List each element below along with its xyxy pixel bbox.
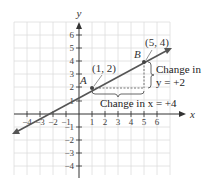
point-a-coords: (1, 2) [92, 62, 116, 75]
point-b: B (5, 4) [134, 36, 169, 64]
point-a-name: A [79, 74, 87, 86]
x-tick-label: 6 [155, 117, 160, 127]
x-tick-label: 2 [103, 117, 108, 127]
y-axis: 6 5 4 3 2 1 −1 −2 −3 −4 y [64, 7, 82, 178]
x-tick-label: 5 [142, 117, 147, 127]
x-axis: −4 −3 −2 −1 1 2 3 4 5 6 x [14, 108, 195, 127]
point-b-name: B [134, 48, 141, 60]
y-axis-label: y [76, 7, 82, 19]
y-tick-label: 3 [70, 69, 75, 79]
slope-graph: −4 −3 −2 −1 1 2 3 4 5 6 x 6 5 4 3 2 1 [0, 0, 210, 191]
x-tick-label: 1 [90, 117, 95, 127]
y-tick-label: −2 [64, 135, 74, 145]
x-axis-label: x [189, 108, 195, 120]
y-tick-label: −3 [64, 148, 74, 158]
point-b-coords: (5, 4) [145, 36, 169, 49]
x-tick-label: 3 [116, 117, 121, 127]
y-axis-arrow-icon [76, 22, 82, 29]
point-a: A (1, 2) [79, 62, 116, 90]
y-tick-label: 5 [70, 43, 75, 53]
change-x-label: Change in x = +4 [100, 97, 177, 109]
y-tick-label: −4 [64, 161, 74, 171]
change-y-line1: Change in [156, 63, 201, 75]
y-tick-label: 6 [70, 30, 75, 40]
x-tick-label: 4 [129, 117, 134, 127]
x-axis-arrow-icon [179, 111, 186, 117]
y-tick-label: −1 [64, 122, 74, 132]
y-tick-label: 2 [70, 82, 75, 92]
x-tick-label: −2 [48, 117, 58, 127]
rise-brace [148, 62, 154, 88]
y-tick-label: 4 [70, 56, 75, 66]
change-y-line2: y = +2 [156, 76, 185, 88]
